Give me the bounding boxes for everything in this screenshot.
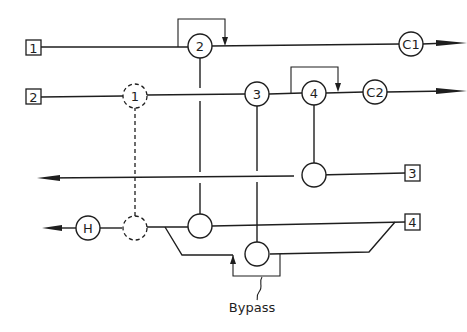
input-1-label: 1: [29, 41, 37, 56]
loop-arrow-4: [335, 83, 341, 92]
input-box-1: 1: [26, 40, 41, 56]
node-exchanger-4a: [188, 214, 212, 238]
outlet-arrow-h: [42, 225, 62, 231]
node-1-dashed: 1: [123, 84, 147, 108]
input-4-label: 4: [408, 215, 416, 230]
bypass-arrow: [230, 255, 236, 264]
node-bypass: [245, 242, 269, 266]
loop-arrow-2: [222, 37, 228, 46]
stream-3: [37, 173, 405, 181]
node-dashed-4: [123, 216, 147, 240]
node-1-label: 1: [131, 89, 139, 104]
node-h-label: H: [83, 221, 93, 236]
input-box-4: 4: [405, 214, 420, 230]
input-3-label: 3: [408, 166, 416, 181]
outlet-arrow-3: [37, 175, 60, 181]
input-2-label: 2: [29, 90, 37, 105]
flow-diagram: 1 2 3 4 2 1 3 4 C1 C2 H: [0, 0, 467, 332]
outlet-arrow-c2: [436, 88, 467, 94]
input-box-3: 3: [405, 165, 420, 181]
node-h: H: [76, 216, 100, 240]
outlet-arrow-c1: [436, 40, 467, 46]
node-exchanger-3: [302, 163, 326, 187]
node-4: 4: [302, 81, 326, 105]
input-box-2: 2: [26, 89, 41, 105]
node-c1-label: C1: [402, 37, 419, 52]
bypass-label: Bypass: [229, 300, 276, 315]
node-c1: C1: [399, 32, 423, 56]
bypass-annotation: Bypass: [229, 277, 276, 315]
node-c2-label: C2: [366, 85, 383, 100]
node-4-label: 4: [310, 86, 318, 101]
node-c2: C2: [363, 80, 387, 104]
node-2-label: 2: [196, 39, 204, 54]
vertical-connectors: [135, 58, 314, 243]
node-3-label: 3: [253, 87, 261, 102]
node-2: 2: [188, 34, 212, 58]
node-3: 3: [245, 82, 269, 106]
